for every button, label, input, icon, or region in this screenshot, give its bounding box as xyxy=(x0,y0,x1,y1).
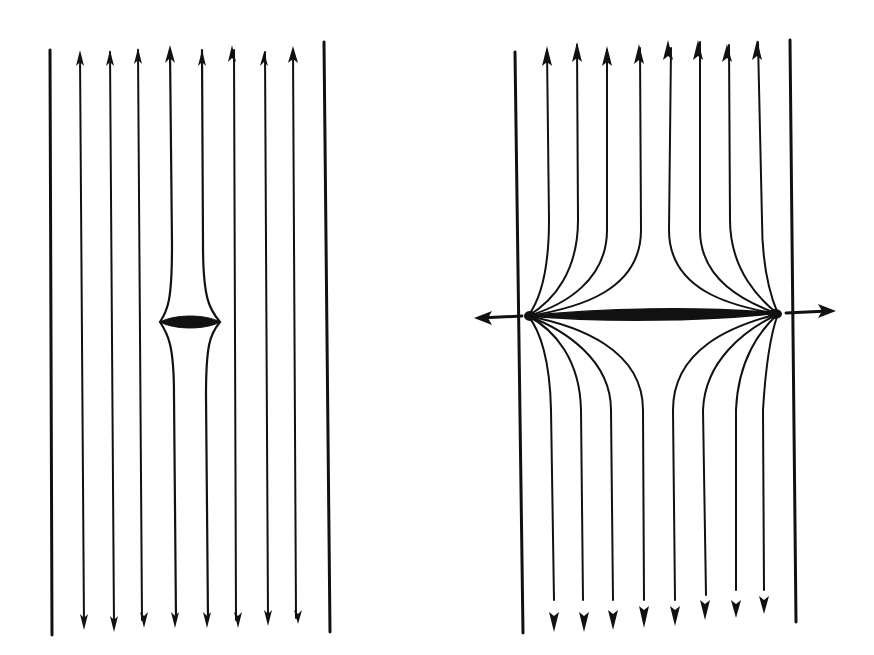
right-boundary-line xyxy=(790,40,796,622)
left-panel xyxy=(50,42,330,635)
right-inclusion xyxy=(526,309,780,320)
left-boundary-line xyxy=(515,52,523,633)
left-boundary-line xyxy=(50,50,52,635)
right-boundary-line xyxy=(324,42,330,632)
right-panel xyxy=(474,40,836,633)
down-arrowheads xyxy=(549,596,769,632)
left-inclusion xyxy=(160,316,220,328)
figure-canvas xyxy=(0,0,874,655)
